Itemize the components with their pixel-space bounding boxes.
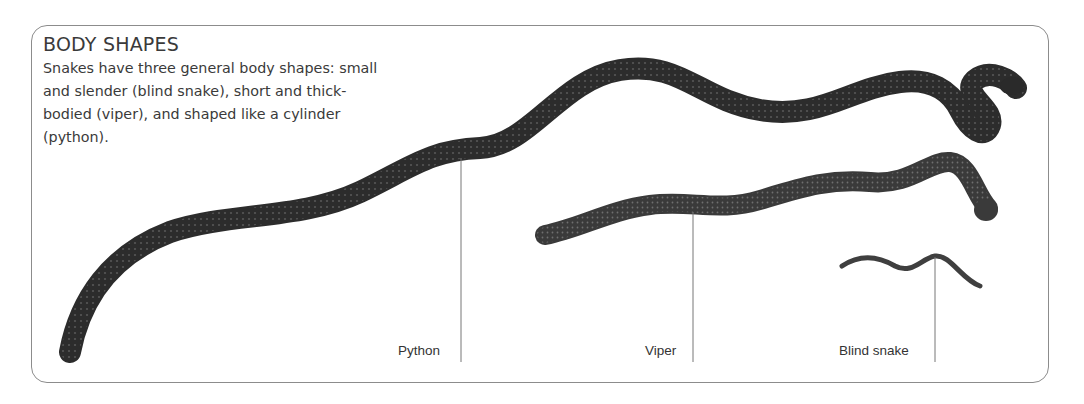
python-illustration xyxy=(70,68,1024,352)
python-label: Python xyxy=(398,343,440,358)
viper-label: Viper xyxy=(645,343,676,358)
viper-illustration xyxy=(545,162,998,235)
blind-snake-label: Blind snake xyxy=(839,343,909,358)
snake-illustrations xyxy=(0,0,1084,404)
blind-snake-illustration xyxy=(842,256,980,286)
viper-head xyxy=(974,199,998,221)
python-head xyxy=(1000,77,1024,95)
